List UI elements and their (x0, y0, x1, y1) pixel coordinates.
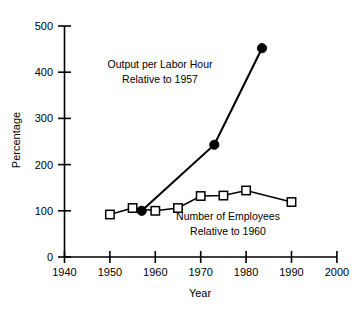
output-annotation-line1: Output per Labor Hour (107, 58, 213, 70)
x-tick-label-1960: 1960 (143, 266, 167, 278)
x-tick-label-2000: 2000 (325, 266, 349, 278)
y-tick-label-300: 300 (35, 112, 53, 124)
y-tick-label-200: 200 (35, 159, 53, 171)
marker-filled-circle (210, 140, 219, 149)
x-tick-label-1940: 1940 (52, 266, 76, 278)
employees-annotation-line1: Number of Employees (176, 210, 280, 222)
x-tick-label-1950: 1950 (98, 266, 122, 278)
employees-annotation-line2: Relative to 1960 (190, 225, 266, 237)
y-tick-label-500: 500 (35, 20, 53, 32)
marker-open-square (219, 191, 227, 199)
marker-filled-circle (137, 206, 146, 215)
output-annotation: Output per Labor Hour Relative to 1957 (107, 58, 213, 85)
marker-open-square (106, 210, 114, 218)
line-chart: 0 100 200 300 400 500 1940 1950 1960 197… (0, 0, 361, 311)
marker-open-square (197, 192, 205, 200)
output-annotation-line2: Relative to 1957 (122, 73, 198, 85)
marker-open-square (287, 198, 295, 206)
x-tick-label-1980: 1980 (234, 266, 258, 278)
marker-open-square (242, 186, 250, 194)
marker-filled-circle (257, 44, 266, 53)
y-tick-label-400: 400 (35, 66, 53, 78)
marker-open-square (128, 204, 136, 212)
y-axis-title: Percentage (10, 112, 22, 168)
employees-annotation: Number of Employees Relative to 1960 (176, 210, 280, 237)
x-tick-label-1990: 1990 (279, 266, 303, 278)
y-tick-label-100: 100 (35, 205, 53, 217)
x-axis-title: Year (189, 287, 212, 299)
marker-open-square (151, 207, 159, 215)
chart-container: 0 100 200 300 400 500 1940 1950 1960 197… (0, 0, 361, 311)
x-tick-label-1970: 1970 (188, 266, 212, 278)
y-tick-label-0: 0 (47, 251, 53, 263)
